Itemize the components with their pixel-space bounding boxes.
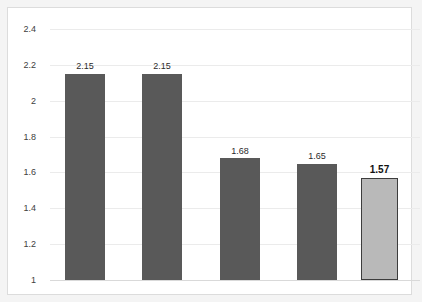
y-axis-tick-label-2: 2: [2, 96, 36, 105]
plot-area: 2.4 2.2 2 1.8 1.6 1.4 1.2 1 2.15: [50, 29, 420, 280]
y-axis-tick-label-1: 1: [2, 276, 36, 285]
y-axis-tick-label-1.2: 1.2: [2, 240, 36, 249]
bar-sweden[interactable]: [65, 74, 105, 280]
bar-slot-germany: 1.68: [220, 29, 260, 280]
bar-chart-figure: 2.4 2.2 2 1.8 1.6 1.4 1.2 1 2.15: [0, 0, 422, 302]
bar-slot-sweden: 2.15: [65, 29, 105, 280]
bar-slot-the-netherlands: 2.15: [142, 29, 182, 280]
bar-value-sweden: 2.15: [76, 62, 94, 71]
bar-slot-france: 1.57: [361, 29, 398, 280]
y-axis-tick-label-1.8: 1.8: [2, 132, 36, 141]
gridline-baseline-1: [50, 280, 420, 281]
bar-france[interactable]: [361, 178, 398, 280]
bar-slot-denmark: 1.65: [297, 29, 337, 280]
bar-value-the-netherlands: 2.15: [153, 62, 171, 71]
bar-value-germany: 1.68: [231, 147, 249, 156]
bar-denmark[interactable]: [297, 164, 337, 281]
bar-the-netherlands[interactable]: [142, 74, 182, 280]
bar-value-france: 1.57: [370, 165, 389, 175]
y-axis-tick-label-2.4: 2.4: [2, 25, 36, 34]
y-axis-tick-label-2.2: 2.2: [2, 60, 36, 69]
bar-germany[interactable]: [220, 158, 260, 280]
y-axis-tick-label-1.4: 1.4: [2, 204, 36, 213]
bar-value-denmark: 1.65: [308, 152, 326, 161]
y-axis-tick-label-1.6: 1.6: [2, 168, 36, 177]
chart-frame: 2.4 2.2 2 1.8 1.6 1.4 1.2 1 2.15: [7, 7, 412, 295]
